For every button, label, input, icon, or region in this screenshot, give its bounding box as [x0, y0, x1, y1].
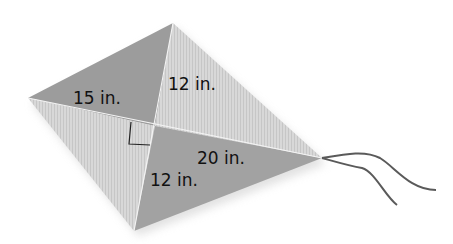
label-12in-upper: 12 in.: [168, 74, 216, 94]
kite-string-lower: [322, 158, 397, 205]
label-15in: 15 in.: [73, 88, 121, 108]
kite-diagram: 15 in. 12 in. 20 in. 12 in.: [0, 0, 453, 244]
label-20in: 20 in.: [197, 148, 245, 168]
label-12in-lower: 12 in.: [150, 170, 198, 190]
